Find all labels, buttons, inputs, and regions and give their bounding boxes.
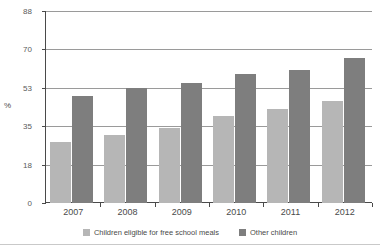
y-tick-mark	[42, 203, 46, 204]
bar	[289, 70, 310, 203]
x-tick-label: 2012	[318, 207, 372, 217]
legend-item[interactable]: Children eligible for free school meals	[83, 228, 219, 237]
x-tick-label: 2008	[101, 207, 155, 217]
legend-label: Other children	[250, 228, 297, 237]
y-tick-label: 70	[6, 45, 32, 54]
bar	[213, 116, 234, 203]
plot-area: 01835537088	[46, 11, 372, 203]
bar-group	[209, 11, 263, 203]
bars-layer	[46, 11, 372, 203]
y-tick-label: 0	[6, 199, 32, 208]
bar	[50, 142, 71, 203]
y-tick-label: 18	[6, 161, 32, 170]
bar	[344, 58, 365, 203]
bar	[104, 135, 125, 203]
bar-group	[100, 11, 154, 203]
x-tick-label: 2007	[46, 207, 100, 217]
legend-swatch-fsm-icon	[83, 229, 90, 236]
bar	[72, 96, 93, 203]
x-tick-label: 2010	[209, 207, 263, 217]
bar-chart: % 01835537088 200720082009201020112012 C…	[0, 0, 380, 249]
legend-swatch-other-icon	[239, 229, 246, 236]
chart-legend: Children eligible for free school mealsO…	[0, 228, 380, 237]
bar-group	[46, 11, 100, 203]
y-tick-label: 53	[6, 84, 32, 93]
y-tick-label: 35	[6, 122, 32, 131]
bar	[126, 88, 147, 203]
bar	[181, 83, 202, 203]
bottom-divider	[0, 244, 380, 245]
x-tick-label: 2011	[264, 207, 318, 217]
bar	[267, 109, 288, 203]
bar	[322, 101, 343, 203]
bar-group	[263, 11, 317, 203]
y-axis-title: %	[4, 101, 11, 110]
bar-group	[155, 11, 209, 203]
legend-label: Children eligible for free school meals	[94, 228, 219, 237]
bar	[235, 74, 256, 203]
legend-item[interactable]: Other children	[239, 228, 297, 237]
x-tick-label: 2009	[155, 207, 209, 217]
bar-group	[318, 11, 372, 203]
y-tick-label: 88	[6, 7, 32, 16]
bar	[159, 128, 180, 203]
x-tick-mark	[372, 203, 373, 207]
